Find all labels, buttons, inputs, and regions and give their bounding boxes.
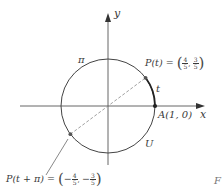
point-P-label: P(t) = (45, 35) bbox=[145, 56, 204, 71]
unit-circle-diagram: y x π t U A(1, 0) P(t) = (45, 35) P(t + … bbox=[0, 0, 222, 191]
y-axis-label: y bbox=[114, 8, 120, 19]
point-P-pi-label: P(t + π) = (−45, −35) bbox=[6, 172, 102, 187]
paren-close: ) bbox=[96, 170, 102, 188]
point-A bbox=[153, 104, 157, 108]
point-P-t bbox=[144, 76, 148, 80]
y-axis-arrow-icon bbox=[105, 13, 111, 22]
arc-t-label: t bbox=[156, 84, 160, 94]
point-A-label: A(1, 0) bbox=[158, 110, 192, 120]
x-axis-label: x bbox=[200, 109, 206, 120]
diagram-canvas bbox=[0, 0, 222, 191]
circle-U-label: U bbox=[145, 139, 153, 149]
point-P-t-plus-pi bbox=[69, 132, 73, 136]
point-P-pi-prefix: P(t + π) = bbox=[6, 173, 58, 184]
arc-t bbox=[146, 78, 155, 106]
paren-close: ) bbox=[199, 54, 205, 72]
x-sign: − bbox=[64, 173, 72, 184]
y-sign: − bbox=[82, 173, 90, 184]
cropped-edge-text: F bbox=[214, 176, 221, 186]
pi-label: π bbox=[78, 55, 85, 65]
point-P-prefix: P(t) = bbox=[145, 57, 177, 68]
